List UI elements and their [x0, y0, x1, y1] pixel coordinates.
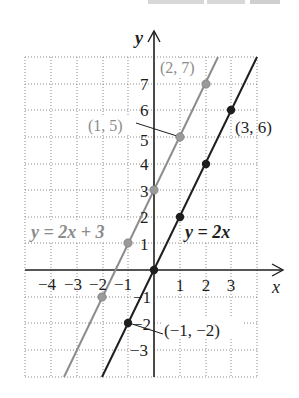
- y-tick-4: 4: [140, 155, 149, 174]
- point-1-5: [176, 133, 184, 141]
- cut-off-header-text: [148, 0, 280, 4]
- y-tick-5: 5: [140, 131, 149, 150]
- x-axis-label: x: [271, 277, 280, 297]
- y-tick-6: 6: [140, 101, 149, 120]
- point-0-0: [150, 266, 158, 274]
- pt-m1-m2-label: (−1, −2): [164, 321, 220, 340]
- x-tick-3: 3: [227, 276, 236, 295]
- pt-3-6-label: (3, 6): [235, 118, 272, 137]
- y-tick-7: 7: [140, 75, 149, 94]
- point-m1-m2: [124, 319, 132, 327]
- x-tick-m2: −2: [89, 275, 107, 294]
- point-m1-1: [124, 239, 132, 247]
- x-tick-1: 1: [176, 276, 185, 295]
- line1-label: y = 2x + 3: [29, 222, 105, 242]
- y-tick-1: 1: [140, 235, 149, 254]
- y-tick-2: 2: [140, 208, 149, 227]
- pt-1-5-label: (1, 5): [88, 117, 123, 135]
- x-tick-2: 2: [202, 276, 211, 295]
- y-tick-m3: −3: [130, 341, 148, 360]
- x-tick-m1: −1: [114, 275, 132, 294]
- line2-label: y = 2x: [183, 222, 230, 242]
- x-tick-m3: −3: [64, 275, 82, 294]
- y-axis-label: y: [133, 28, 144, 48]
- point-m2-m1: [98, 293, 106, 301]
- y-tick-m1: −1: [133, 288, 151, 307]
- y-tick-3: 3: [140, 182, 149, 201]
- point-2-4: [202, 160, 210, 168]
- point-3-6: [227, 106, 235, 114]
- point-0-3: [150, 186, 158, 194]
- point-2-7: [202, 80, 210, 88]
- coordinate-plane: y x 7 6 5 4 3 2 1 −1 −2 −3 −4 −3 −2 −1 1…: [0, 0, 299, 398]
- y-tick-m2: −2: [133, 315, 151, 334]
- x-tick-m4: −4: [38, 275, 57, 294]
- point-1-2: [176, 213, 184, 221]
- pt-2-7-label: (2, 7): [160, 59, 195, 77]
